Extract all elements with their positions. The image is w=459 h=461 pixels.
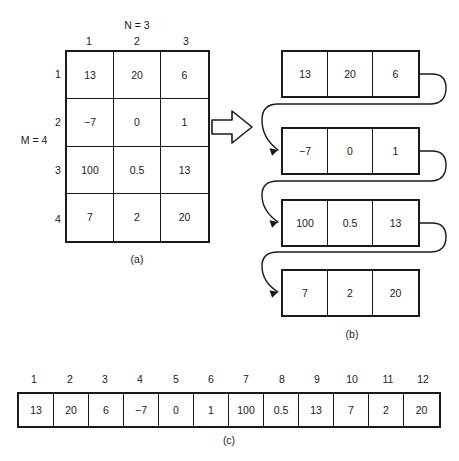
strip-cell: 1	[373, 129, 418, 173]
strip-row-2: −7 0 1	[281, 127, 420, 175]
strip-cell: 20	[328, 52, 373, 96]
figure-canvas: N = 3 M = 4 1 2 3 1 2 3 4 13 20 6 −7 0 1…	[0, 0, 459, 461]
strip-cell: 20	[373, 271, 418, 315]
strip-row-3: 100 0.5 13	[281, 199, 420, 247]
strip-row-4: 7 2 20	[281, 269, 420, 317]
strip-cell: 13	[283, 52, 328, 96]
strip-cell: 100	[283, 201, 328, 245]
transform-arrow-icon	[210, 108, 254, 146]
strip-cell: 2	[328, 271, 373, 315]
strip-cell: −7	[283, 129, 328, 173]
strip-cell: 0	[328, 129, 373, 173]
strip-cell: 7	[283, 271, 328, 315]
strip-cell: 0.5	[328, 201, 373, 245]
strip-row-1: 13 20 6	[281, 50, 420, 98]
strip-cell: 6	[373, 52, 418, 96]
strip-cell: 13	[373, 201, 418, 245]
